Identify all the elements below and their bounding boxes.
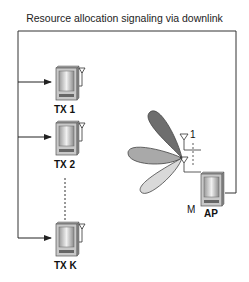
- txk-label: TX K: [54, 260, 77, 271]
- antenna-icon: [79, 224, 85, 242]
- antenna-1-label: 1: [190, 129, 196, 140]
- arrows: [18, 82, 51, 238]
- diagram-canvas: [0, 0, 249, 282]
- tx1-label: TX 1: [54, 104, 75, 115]
- antenna-icon: [79, 123, 85, 141]
- signaling-path: [18, 31, 236, 238]
- ap-label: AP: [204, 208, 218, 219]
- beam-pattern: [128, 111, 182, 194]
- txk-device-icon: [56, 222, 85, 256]
- ap-device-icon: [201, 172, 224, 206]
- tx2-device-icon: [56, 121, 85, 155]
- tx1-device-icon: [56, 66, 85, 100]
- antenna-icon: [79, 68, 85, 86]
- antenna-m-label: M: [187, 204, 195, 215]
- tx2-label: TX 2: [54, 159, 75, 170]
- antenna-1-icon: [180, 134, 188, 140]
